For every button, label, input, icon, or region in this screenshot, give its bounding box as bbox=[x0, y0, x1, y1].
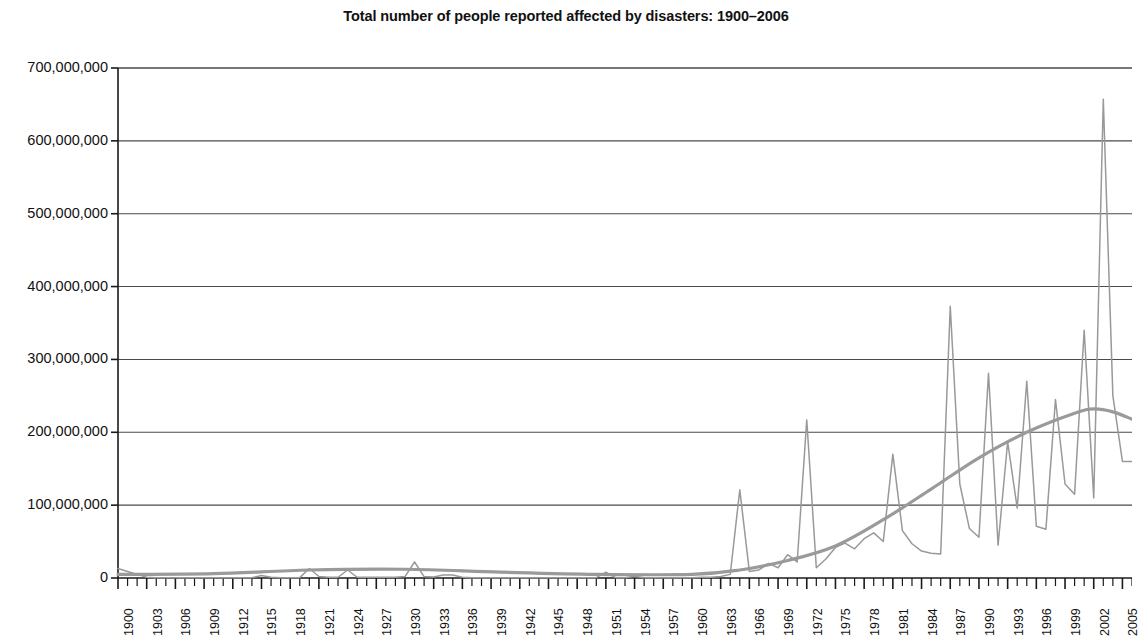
x-tick-label: 1999 bbox=[1070, 608, 1083, 636]
x-tick-label: 1939 bbox=[496, 608, 509, 636]
x-tick-label: 1915 bbox=[266, 608, 279, 636]
x-tick-label: 1903 bbox=[152, 608, 165, 636]
x-tick-label: 1972 bbox=[812, 608, 825, 636]
x-tick-label: 1921 bbox=[324, 608, 337, 636]
x-tick-label: 1981 bbox=[898, 608, 911, 636]
x-tick-label: 2002 bbox=[1099, 608, 1112, 636]
x-tick-label: 1942 bbox=[525, 608, 538, 636]
x-tick-label: 1990 bbox=[984, 608, 997, 636]
x-tick-label: 1900 bbox=[123, 608, 136, 636]
x-tick-label: 1924 bbox=[353, 608, 366, 636]
x-tick-label: 1918 bbox=[295, 608, 308, 636]
x-tick-label: 1963 bbox=[726, 608, 739, 636]
x-tick-label: 1957 bbox=[668, 608, 681, 636]
x-tick-label: 1975 bbox=[840, 608, 853, 636]
x-tick-label: 1909 bbox=[209, 608, 222, 636]
x-tick-label: 1930 bbox=[410, 608, 423, 636]
x-tick-label: 1912 bbox=[238, 608, 251, 636]
x-tick-label: 1993 bbox=[1013, 608, 1026, 636]
x-tick-label: 1936 bbox=[467, 608, 480, 636]
x-tick-label: 1966 bbox=[754, 608, 767, 636]
x-tick-label: 1960 bbox=[697, 608, 710, 636]
x-tick-label: 1951 bbox=[611, 608, 624, 636]
x-tick-label: 1969 bbox=[783, 608, 796, 636]
x-tick-label: 1978 bbox=[869, 608, 882, 636]
x-tick-label: 1933 bbox=[439, 608, 452, 636]
x-tick-label: 1906 bbox=[180, 608, 193, 636]
x-tick-label: 1987 bbox=[955, 608, 968, 636]
x-tick-label: 1948 bbox=[582, 608, 595, 636]
x-tick-label: 1984 bbox=[927, 608, 940, 636]
x-tick-label: 2005 bbox=[1127, 608, 1140, 636]
x-tick-label: 1927 bbox=[381, 608, 394, 636]
x-tick-label: 1945 bbox=[553, 608, 566, 636]
x-tick-label: 1954 bbox=[640, 608, 653, 636]
x-tick-label: 1996 bbox=[1041, 608, 1054, 636]
